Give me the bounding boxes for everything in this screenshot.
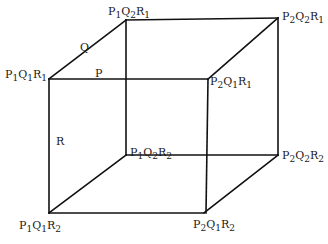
edge-diag-top-right [208,18,278,79]
vertex-label-p2q2r1: P2Q2R1 [282,11,324,25]
vertex-label-p1q1r1: P1Q1R1 [5,69,47,83]
edge-diag-bottom-right [204,155,278,213]
edge-diag-bottom-left [49,155,126,213]
vertex-label-p2q1r2: P2Q1R2 [193,219,235,233]
edge-front-right [206,79,208,213]
cube-diagram: Q P R P1Q2R1 P2Q2R1 P1Q1R1 P2Q1R1 P1Q2R2… [0,0,328,244]
axis-label-q: Q [80,42,89,53]
vertex-label-p1q2r1: P1Q2R1 [108,6,150,20]
axis-label-r: R [56,136,64,147]
vertex-label-p1q1r2: P1Q1R2 [19,220,61,234]
cube-edges [0,0,328,244]
vertex-label-p2q2r2: P2Q2R2 [282,150,324,164]
vertex-label-p1q2r2: P1Q2R2 [130,147,172,161]
vertex-label-p2q1r1: P2Q1R1 [210,76,252,90]
axis-label-p: P [95,68,102,79]
